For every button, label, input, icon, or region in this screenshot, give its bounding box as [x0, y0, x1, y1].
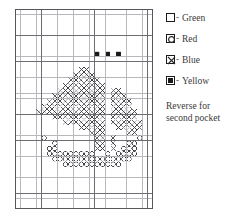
legend-item-red: - Red	[166, 33, 234, 44]
empty-square-icon	[166, 13, 175, 22]
legend-label-red: Red	[182, 34, 197, 44]
circle-square-icon	[166, 34, 175, 43]
legend-dash: -	[176, 55, 179, 64]
filled-square-icon	[166, 76, 175, 85]
legend-label-green: Green	[182, 13, 205, 23]
legend: - Green - Red - Blue - Yellow	[166, 12, 234, 96]
instruction-note: Reverse for second pocket	[166, 101, 235, 124]
note-line-1: Reverse for	[166, 101, 235, 113]
legend-label-yellow: Yellow	[182, 76, 209, 86]
legend-item-green: - Green	[166, 12, 234, 23]
note-line-2: second pocket	[166, 113, 235, 125]
legend-dash: -	[176, 13, 179, 22]
pattern-grid-canvas	[15, 9, 153, 209]
legend-item-blue: - Blue	[166, 54, 234, 65]
legend-dash: -	[176, 34, 179, 43]
pattern-chart	[15, 9, 153, 209]
legend-dash: -	[176, 76, 179, 85]
legend-item-yellow: - Yellow	[166, 75, 234, 86]
cross-square-icon	[166, 55, 175, 64]
legend-label-blue: Blue	[182, 55, 200, 65]
